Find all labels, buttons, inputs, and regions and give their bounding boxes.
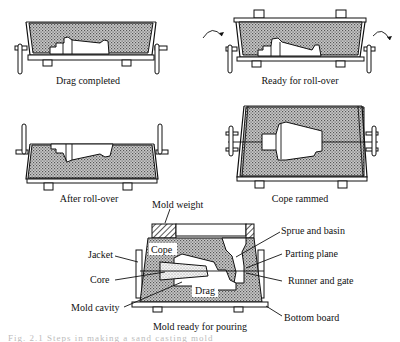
caption-cope-rammed: Cope rammed bbox=[272, 193, 328, 204]
roll-arrow-left-icon bbox=[203, 30, 222, 38]
mold-board bbox=[28, 55, 154, 60]
flask-pin bbox=[155, 44, 159, 74]
panel-ready-for-roll-over: Ready for roll-over bbox=[203, 10, 392, 86]
label-runner-and-gate: Runner and gate bbox=[288, 275, 354, 286]
molding-steps-figure: Drag completed Ready for roll-over bbox=[0, 0, 400, 342]
label-bottom-board: Bottom board bbox=[284, 312, 339, 323]
caption-drag-completed: Drag completed bbox=[56, 75, 120, 86]
label-mold-weight: Mold weight bbox=[152, 199, 204, 210]
roll-arrow-right-icon bbox=[373, 31, 390, 40]
label-cope: Cope bbox=[151, 244, 173, 255]
panel-cope-rammed: Cope rammed bbox=[226, 106, 378, 204]
figure-caption-text: Fig. 2.1 Steps in making a sand casting … bbox=[8, 333, 398, 342]
bottom-board bbox=[132, 302, 268, 307]
label-sprue-and-basin: Sprue and basin bbox=[281, 225, 345, 236]
label-jacket: Jacket bbox=[88, 249, 113, 260]
caption-ready-for-roll-over: Ready for roll-over bbox=[261, 75, 339, 86]
panel-after-roll-over: After roll-over bbox=[16, 124, 168, 204]
label-drag: Drag bbox=[195, 285, 215, 296]
flask-pin bbox=[18, 44, 22, 74]
caption-after-roll-over: After roll-over bbox=[60, 193, 119, 204]
panel-mold-ready: Cope Drag Mold weight Jacket Core Mold c… bbox=[71, 199, 354, 332]
bottom-board bbox=[234, 18, 366, 22]
label-parting-plane: Parting plane bbox=[285, 248, 339, 259]
label-mold-cavity: Mold cavity bbox=[71, 302, 120, 313]
mold-weight bbox=[152, 224, 176, 238]
panel-drag-completed: Drag completed bbox=[15, 22, 167, 86]
label-core: Core bbox=[90, 274, 110, 285]
figure-caption-partial: Fig. 2.1 Steps in making a sand casting … bbox=[8, 333, 398, 342]
caption-mold-ready: Mold ready for pouring bbox=[153, 321, 247, 332]
